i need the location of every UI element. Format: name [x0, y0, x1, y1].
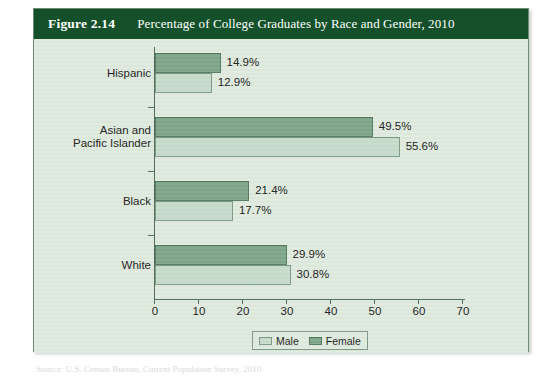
- x-axis-tick-label: 30: [272, 305, 302, 317]
- x-axis-tick: [462, 299, 463, 304]
- bar-value-label: 14.9%: [227, 56, 260, 68]
- category-label-line: Asian and: [1, 124, 151, 137]
- x-axis-tick-label: 20: [228, 305, 258, 317]
- bar-value-label: 55.6%: [406, 140, 439, 152]
- bar-value-label: 49.5%: [379, 120, 412, 132]
- legend-swatch-icon: [259, 337, 272, 345]
- bar-male: [155, 265, 291, 285]
- x-axis-tick: [374, 299, 375, 304]
- legend-item-female[interactable]: Female: [309, 336, 361, 346]
- x-axis-tick: [330, 299, 331, 304]
- bar-value-label: 29.9%: [293, 248, 326, 260]
- source-note: Source: U.S. Census Bureau, Current Popu…: [36, 364, 506, 374]
- bar-male: [155, 73, 212, 93]
- bar-female: [155, 181, 249, 201]
- legend-swatch-icon: [309, 337, 322, 345]
- chart-legend: MaleFemale: [252, 331, 368, 350]
- y-axis-tick: [148, 171, 154, 172]
- x-axis-tick: [198, 299, 199, 304]
- chart-plot-area: HispanicAsian andPacific IslanderBlackWh…: [34, 39, 528, 353]
- category-label-line: White: [1, 259, 151, 272]
- x-axis-tick-label: 70: [448, 305, 478, 317]
- category-label-line: Black: [1, 195, 151, 208]
- x-axis-tick-label: 50: [360, 305, 390, 317]
- bar-male: [155, 137, 400, 157]
- x-axis-tick: [242, 299, 243, 304]
- category-label-line: Hispanic: [1, 67, 151, 80]
- x-axis-tick-label: 0: [140, 305, 170, 317]
- x-axis-tick: [286, 299, 287, 304]
- figure-number: Figure 2.14: [48, 16, 115, 32]
- y-axis-tick: [148, 107, 154, 108]
- bar-value-label: 21.4%: [255, 184, 288, 196]
- bar-value-label: 12.9%: [218, 76, 251, 88]
- category-label: Hispanic: [1, 67, 151, 80]
- bar-female: [155, 117, 373, 137]
- bar-male: [155, 201, 233, 221]
- category-label: Black: [1, 195, 151, 208]
- figure-title: Percentage of College Graduates by Race …: [137, 16, 454, 32]
- legend-label: Male: [276, 336, 299, 346]
- category-label: Asian andPacific Islander: [1, 124, 151, 150]
- x-axis-tick: [418, 299, 419, 304]
- figure-container: Figure 2.14 Percentage of College Gradua…: [33, 8, 529, 352]
- category-label: White: [1, 259, 151, 272]
- y-axis-tick: [148, 235, 154, 236]
- bar-female: [155, 245, 287, 265]
- bar-value-label: 17.7%: [239, 204, 272, 216]
- x-axis-tick-label: 40: [316, 305, 346, 317]
- figure-title-bar: Figure 2.14 Percentage of College Gradua…: [34, 9, 528, 39]
- x-axis-tick-label: 10: [184, 305, 214, 317]
- legend-item-male[interactable]: Male: [259, 336, 299, 346]
- x-axis-tick: [154, 299, 155, 304]
- bar-female: [155, 53, 221, 73]
- legend-label: Female: [326, 336, 361, 346]
- category-label-line: Pacific Islander: [1, 137, 151, 150]
- x-axis-tick-label: 60: [404, 305, 434, 317]
- bar-value-label: 30.8%: [297, 268, 330, 280]
